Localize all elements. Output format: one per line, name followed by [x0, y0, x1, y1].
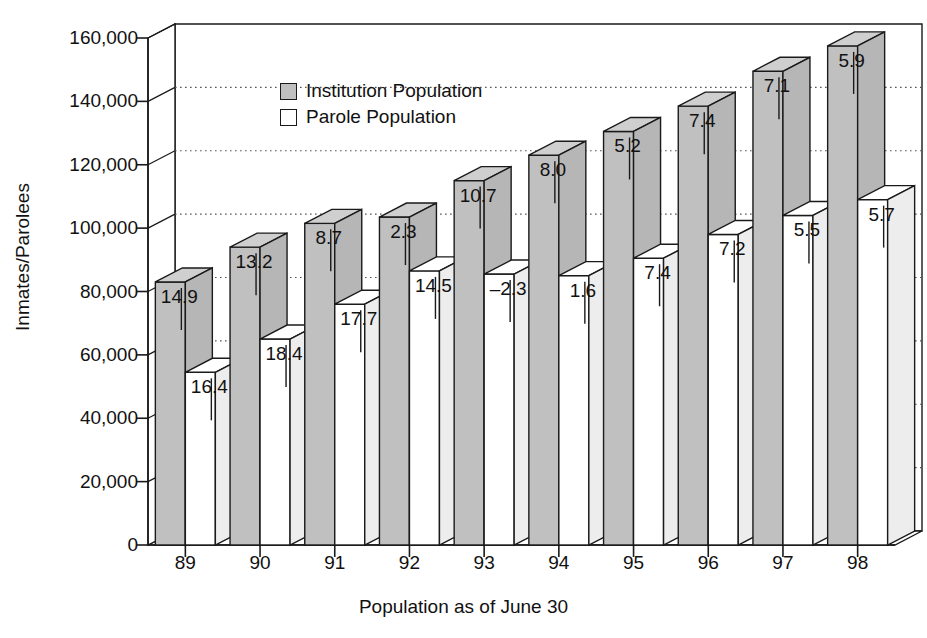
bar-label: 8.0	[540, 159, 566, 181]
bar-label: 5.5	[794, 219, 820, 241]
bar-label: 7.4	[644, 262, 670, 284]
legend-label: Institution Population	[306, 80, 482, 102]
bar-label: 1.6	[570, 280, 596, 302]
bar-label: 8.7	[316, 227, 342, 249]
bar-label: 7.4	[689, 110, 715, 132]
bar-label: 18.4	[266, 343, 303, 365]
legend-swatch-icon	[280, 109, 297, 126]
legend-label: Parole Population	[306, 106, 456, 128]
bar-label: 17.7	[340, 308, 377, 330]
bar-label: 5.9	[838, 50, 864, 72]
bar-label: –2.3	[490, 278, 527, 300]
bar-label: 16.4	[191, 376, 228, 398]
bar-label: 2.3	[390, 221, 416, 243]
bar-label: 10.7	[460, 185, 497, 207]
bar-98-parole	[858, 186, 915, 545]
bar-label: 5.2	[614, 135, 640, 157]
bar-label: 14.5	[415, 275, 452, 297]
bar-label: 7.2	[719, 238, 745, 260]
bar-label: 7.1	[764, 75, 790, 97]
legend-swatch-icon	[280, 83, 297, 100]
chart-legend: Institution PopulationParole Population	[280, 78, 482, 130]
bar-label: 14.9	[161, 286, 198, 308]
legend-entry: Institution Population	[280, 78, 482, 104]
bar-label: 5.7	[868, 204, 894, 226]
bar-label: 13.2	[236, 251, 273, 273]
legend-entry: Parole Population	[280, 104, 482, 130]
bar-chart: Inmates/Parolees Population as of June 3…	[0, 0, 927, 638]
